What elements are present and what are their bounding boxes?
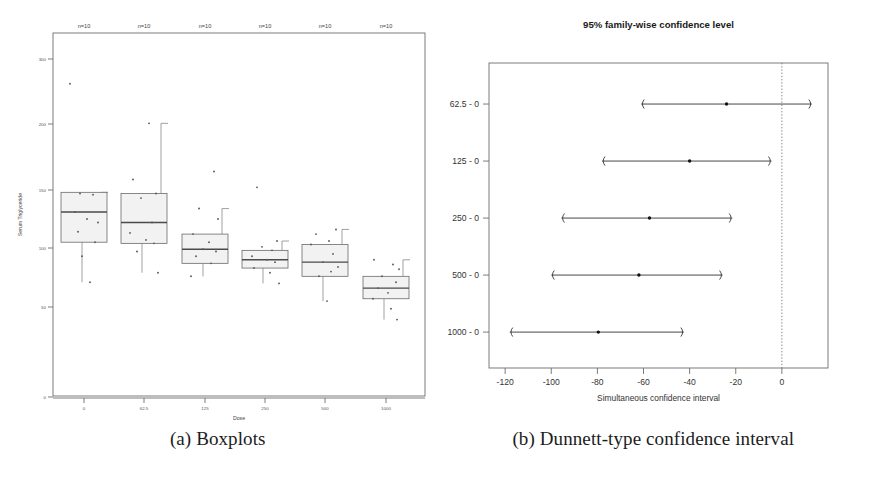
x-tick-label: -100 — [543, 377, 560, 387]
x-tick-label: 500 — [321, 406, 329, 411]
confidence-interval-row — [561, 214, 732, 223]
data-point — [377, 287, 379, 289]
box — [121, 193, 167, 243]
data-point — [390, 308, 392, 310]
data-point — [217, 218, 219, 220]
data-point — [77, 231, 79, 233]
x-tick-label: -40 — [683, 377, 696, 387]
data-point — [140, 197, 142, 199]
box — [61, 192, 107, 242]
data-point — [337, 266, 339, 268]
panel-boxplots: 300200150100500Serum Triglyceride062.512… — [0, 0, 436, 425]
data-point — [198, 208, 200, 210]
data-point — [132, 178, 134, 180]
chart-title: 95% family-wise confidence level — [583, 19, 734, 30]
comparison-label: 500 - 0 — [452, 270, 479, 280]
confidence-interval-row — [551, 271, 722, 280]
confidence-interval-row — [641, 100, 812, 109]
data-point — [332, 253, 334, 255]
data-point — [396, 319, 398, 321]
y-tick-label: 200 — [39, 122, 47, 127]
x-tick-label: 62.5 — [140, 406, 149, 411]
data-point — [253, 267, 255, 269]
comparison-label: 250 - 0 — [452, 213, 479, 223]
x-tick-label: -80 — [591, 377, 604, 387]
data-point — [315, 233, 317, 235]
data-point — [208, 241, 210, 243]
y-tick-label: 0 — [44, 395, 47, 400]
x-axis-title: Dose — [233, 415, 245, 421]
data-point — [251, 255, 253, 257]
data-point — [318, 275, 320, 277]
box — [302, 245, 348, 277]
point-estimate — [648, 216, 651, 219]
data-point — [86, 218, 88, 220]
y-tick-label: 100 — [39, 246, 47, 251]
confidence-interval-chart: 95% family-wise confidence level-120-100… — [436, 0, 871, 425]
data-point — [94, 241, 96, 243]
data-point — [145, 239, 147, 241]
group-size-label: n=10 — [138, 23, 151, 29]
point-estimate — [597, 330, 600, 333]
data-point — [89, 281, 91, 283]
y-axis-title: Serum Triglyceride — [17, 193, 23, 236]
group-size-label: n=10 — [380, 23, 393, 29]
x-tick-label: 250 — [261, 406, 269, 411]
data-point — [271, 249, 273, 251]
boxplot-group — [61, 83, 108, 283]
data-point — [330, 271, 332, 273]
group-size-label: n=10 — [199, 23, 212, 29]
confidence-interval-row — [510, 328, 684, 337]
data-point — [328, 240, 330, 242]
data-point — [157, 272, 159, 274]
data-point — [129, 232, 131, 234]
data-point — [269, 272, 271, 274]
data-point — [398, 268, 400, 270]
data-point — [373, 259, 375, 261]
data-point — [148, 122, 150, 124]
data-point — [92, 194, 94, 196]
caption-row: (a) Boxplots (b) Dunnett-type confidence… — [0, 428, 871, 468]
data-point — [195, 255, 197, 257]
caption-b: (b) Dunnett-type confidence interval — [436, 428, 871, 468]
data-point — [322, 261, 324, 263]
x-tick-label: 0 — [779, 377, 784, 387]
group-size-label: n=10 — [259, 23, 272, 29]
boxplot-chart: 300200150100500Serum Triglyceride062.512… — [0, 0, 436, 425]
data-point — [151, 222, 153, 224]
data-point — [278, 282, 280, 284]
boxplot-group — [182, 171, 229, 278]
data-point — [215, 251, 217, 253]
data-point — [97, 222, 99, 224]
plot-frame — [489, 63, 828, 368]
comparison-label: 62.5 - 0 — [450, 99, 479, 109]
data-point — [153, 242, 155, 244]
x-tick-label: 1000 — [381, 406, 391, 411]
x-tick-label: -20 — [730, 377, 743, 387]
y-tick-label: 150 — [39, 188, 47, 193]
y-tick-label: 300 — [39, 57, 47, 62]
data-point — [69, 83, 71, 85]
data-point — [276, 240, 278, 242]
data-point — [310, 244, 312, 246]
confidence-interval-row — [602, 157, 772, 166]
x-tick-label: 0 — [83, 406, 86, 411]
data-point — [274, 261, 276, 263]
x-tick-label: -120 — [497, 377, 514, 387]
data-point — [266, 259, 268, 261]
data-point — [192, 233, 194, 235]
data-point — [381, 275, 383, 277]
x-axis-title: Simultaneous confidence interval — [597, 393, 720, 403]
data-point — [213, 171, 215, 173]
x-tick-label: -60 — [637, 377, 650, 387]
point-estimate — [637, 273, 640, 276]
boxplot-group — [242, 186, 289, 284]
boxplot-group — [363, 259, 410, 321]
data-point — [372, 298, 374, 300]
comparison-label: 1000 - 0 — [447, 327, 479, 337]
data-point — [136, 251, 138, 253]
panel-confidence-intervals: 95% family-wise confidence level-120-100… — [436, 0, 871, 425]
data-point — [81, 255, 83, 257]
plot-frame — [53, 33, 425, 396]
group-size-label: n=10 — [319, 23, 332, 29]
